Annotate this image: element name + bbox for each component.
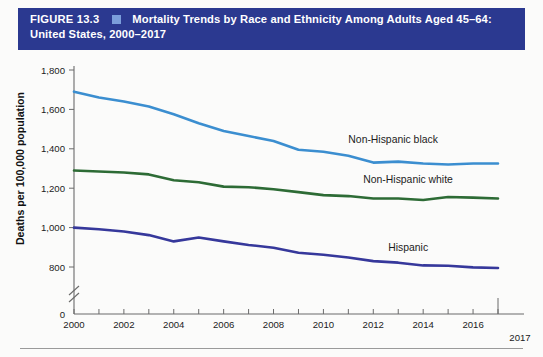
series-line-non-hispanic-black xyxy=(74,92,498,165)
y-tick-label: 1,200 xyxy=(41,183,65,194)
y-tick-label: 1,600 xyxy=(41,104,65,115)
x-tick-label: 2006 xyxy=(213,319,234,330)
y-tick-label: 1,800 xyxy=(41,65,65,76)
figure-header-bar: FIGURE 13.3 Mortality Trends by Race and… xyxy=(18,8,525,50)
x-end-label: 2017 xyxy=(509,332,530,342)
series-label-non-hispanic-white: Non-Hispanic white xyxy=(363,174,453,185)
x-tick-label: 2008 xyxy=(263,319,284,330)
y-tick-label: 800 xyxy=(49,262,65,273)
x-tick-label: 2016 xyxy=(462,319,483,330)
chart-canvas: 8001,0001,2001,4001,6001,800020002002200… xyxy=(0,52,543,342)
x-tick-label: 2010 xyxy=(313,319,334,330)
y-zero-label: 0 xyxy=(60,309,65,320)
x-tick-label: 2004 xyxy=(163,319,185,330)
figure-container: FIGURE 13.3 Mortality Trends by Race and… xyxy=(0,0,543,357)
series-label-non-hispanic-black: Non-Hispanic black xyxy=(348,134,438,145)
y-tick-label: 1,400 xyxy=(41,143,65,154)
line-chart: 8001,0001,2001,4001,6001,800020002002200… xyxy=(0,52,543,342)
x-tick-label: 2012 xyxy=(363,319,384,330)
x-tick-label: 2014 xyxy=(413,319,435,330)
x-tick-label: 2002 xyxy=(113,319,134,330)
square-bullet-icon xyxy=(112,15,121,24)
figure-title-line1: Mortality Trends by Race and Ethnicity A… xyxy=(132,13,491,25)
figure-number: FIGURE 13.3 xyxy=(30,13,99,25)
y-axis-title: Deaths per 100,000 population xyxy=(14,92,26,245)
header-line-one: FIGURE 13.3 Mortality Trends by Race and… xyxy=(30,13,513,25)
y-tick-label: 1,000 xyxy=(41,222,65,233)
x-tick-label: 2000 xyxy=(63,319,84,330)
figure-title-line2: United States, 2000–2017 xyxy=(30,28,513,40)
series-line-hispanic xyxy=(74,228,498,268)
bottom-divider xyxy=(20,348,523,349)
series-label-hispanic: Hispanic xyxy=(388,242,428,253)
